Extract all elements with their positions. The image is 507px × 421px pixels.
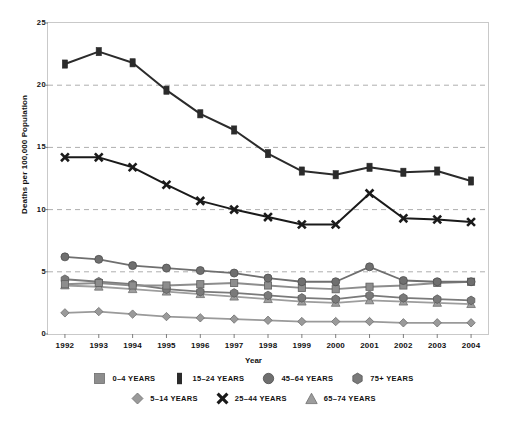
square-legend-icon <box>93 372 106 385</box>
data-point-diamond <box>95 307 103 315</box>
x-legend-icon <box>216 392 229 405</box>
data-point-square-filled <box>96 48 101 56</box>
legend-item-label: 25–44 YEARS <box>235 394 287 403</box>
chart-container: 0510152025 Deaths per 100,000 Population… <box>0 0 507 421</box>
data-point-hexagon <box>197 287 204 296</box>
data-point-circle <box>230 269 238 277</box>
data-point-square-filled <box>232 126 237 134</box>
legend-item[interactable]: 65–74 YEARS <box>305 392 376 405</box>
data-point-square-filled <box>333 171 338 179</box>
data-point-square-filled <box>130 59 135 67</box>
data-point-hexagon <box>230 289 237 298</box>
legend-item[interactable]: 75+ YEARS <box>351 372 413 385</box>
data-point-square-filled <box>367 163 372 171</box>
legend-item[interactable]: 5–14 YEARS <box>131 392 197 405</box>
data-point-circle <box>95 255 103 263</box>
data-point-square <box>61 281 68 288</box>
data-point-circle <box>162 264 170 272</box>
data-point-circle <box>467 278 475 286</box>
data-point-hexagon <box>467 296 474 305</box>
data-point-circle <box>264 274 272 282</box>
data-point-x <box>366 190 374 198</box>
triangle-legend-icon <box>305 392 318 405</box>
data-point-square <box>163 282 170 289</box>
data-point-circle <box>399 277 407 285</box>
chart-legend: 0–4 YEARS15–24 YEARS45–64 YEARS75+ YEARS… <box>0 372 507 405</box>
data-point-square-filled <box>468 177 473 185</box>
data-point-diamond <box>196 314 204 322</box>
data-point-circle <box>298 278 306 286</box>
legend-item[interactable]: 45–64 YEARS <box>262 372 333 385</box>
data-point-hexagon <box>434 295 441 304</box>
data-point-diamond <box>230 315 238 323</box>
legend-item-label: 75+ YEARS <box>370 374 413 383</box>
circle-legend-icon <box>262 372 275 385</box>
data-point-square-filled <box>265 150 270 158</box>
data-point-diamond <box>128 310 136 318</box>
data-point-square-filled <box>401 168 406 176</box>
data-point-hexagon <box>400 294 407 303</box>
data-point-square <box>129 282 136 289</box>
legend-item[interactable]: 0–4 YEARS <box>93 372 155 385</box>
legend-item-label: 15–24 YEARS <box>192 374 244 383</box>
data-point-square-filled <box>62 60 67 68</box>
data-point-circle <box>129 262 137 270</box>
data-point-circle <box>332 278 340 286</box>
legend-item[interactable]: 25–44 YEARS <box>216 392 287 405</box>
series-line <box>65 52 471 181</box>
data-point-diamond <box>331 317 339 325</box>
data-point-diamond <box>399 319 407 327</box>
data-point-circle <box>61 253 69 261</box>
data-point-square-filled <box>435 167 440 175</box>
legend-row-2: 5–14 YEARS25–44 YEARS65–74 YEARS <box>131 392 375 405</box>
data-point-hexagon <box>264 291 271 300</box>
data-point-square <box>332 286 339 293</box>
legend-item-label: 45–64 YEARS <box>281 374 333 383</box>
square-filled-legend-icon <box>173 372 186 385</box>
diamond-legend-icon <box>131 392 144 405</box>
data-point-circle <box>433 278 441 286</box>
legend-row-1: 0–4 YEARS15–24 YEARS45–64 YEARS75+ YEARS <box>93 372 413 385</box>
data-point-hexagon <box>298 294 305 303</box>
data-point-square <box>197 281 204 288</box>
data-point-diamond <box>264 316 272 324</box>
legend-item[interactable]: 15–24 YEARS <box>173 372 244 385</box>
data-point-square-filled <box>299 167 304 175</box>
data-point-diamond <box>467 319 475 327</box>
legend-item-label: 0–4 YEARS <box>112 374 155 383</box>
data-point-square-filled <box>198 110 203 118</box>
data-point-diamond <box>61 309 69 317</box>
data-point-circle <box>366 263 374 271</box>
data-point-circle <box>196 267 204 275</box>
legend-item-label: 5–14 YEARS <box>150 394 197 403</box>
chart-plot-svg <box>0 0 507 421</box>
data-point-diamond <box>433 319 441 327</box>
data-point-diamond <box>298 317 306 325</box>
hexagon-legend-icon <box>351 372 364 385</box>
data-point-diamond <box>162 312 170 320</box>
data-point-hexagon <box>366 291 373 300</box>
data-point-square <box>231 279 238 286</box>
data-point-x <box>163 181 171 189</box>
data-point-hexagon <box>332 295 339 304</box>
data-point-diamond <box>365 317 373 325</box>
legend-item-label: 65–74 YEARS <box>324 394 376 403</box>
data-point-square <box>95 279 102 286</box>
data-point-square <box>264 282 271 289</box>
data-point-square <box>366 283 373 290</box>
series-line <box>65 157 471 224</box>
data-point-square-filled <box>164 86 169 94</box>
